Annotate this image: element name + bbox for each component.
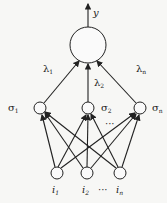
weight-label-1: λ1 [43, 63, 53, 75]
output-label: y [92, 7, 99, 18]
hidden-label-n: σn [152, 102, 163, 114]
input-hidden-edges [42, 112, 139, 168]
input-node-1 [51, 167, 63, 179]
input-label-1: i1 [52, 184, 59, 196]
hidden-label-1: σ1 [8, 102, 19, 114]
hidden-node-1 [34, 102, 46, 114]
weight-label-2: λ2 [94, 77, 104, 89]
hidden-node-n [134, 102, 146, 114]
input-label-n: in [116, 184, 123, 196]
input-label-2: i2 [82, 184, 89, 196]
input-node-n [114, 167, 126, 179]
output-node [70, 27, 106, 63]
input-node-2 [81, 167, 93, 179]
input-ellipsis: ··· [98, 184, 108, 195]
hidden-node-2 [82, 102, 94, 114]
weight-label-n: λn [136, 63, 146, 75]
network-diagram: y λ1 λ2 λn σ1 σ2 σn ··· i1 i2 in ··· [0, 0, 167, 203]
hidden-label-2: σ2 [101, 102, 112, 114]
hidden-ellipsis: ··· [105, 118, 115, 129]
